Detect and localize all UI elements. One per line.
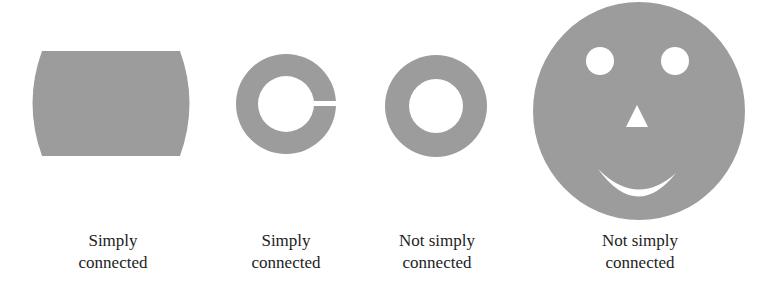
label-line-1: Not simply [560,230,720,252]
smiley-face-shape [533,2,745,220]
label-line-2: connected [33,252,193,274]
label-smiley-face: Not simply connected [560,230,720,274]
label-line-2: connected [206,252,366,274]
label-annulus: Not simply connected [357,230,517,274]
label-line-1: Simply [206,230,366,252]
label-slit-ring: Simply connected [206,230,366,274]
slit-ring-shape [236,54,336,154]
barrel-shape [33,51,190,156]
label-line-1: Simply [33,230,193,252]
label-line-2: connected [560,252,720,274]
label-line-1: Not simply [357,230,517,252]
label-line-2: connected [357,252,517,274]
label-barrel: Simply connected [33,230,193,274]
annulus-shape [385,55,487,157]
